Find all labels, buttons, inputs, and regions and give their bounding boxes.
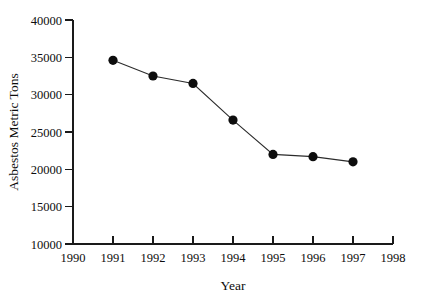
x-tick-label: 1991 bbox=[101, 251, 126, 265]
chart-container: 10000150002000025000300003500040000 1990… bbox=[0, 0, 442, 297]
x-tick-label: 1998 bbox=[381, 251, 406, 265]
x-axis-title: Year bbox=[221, 278, 246, 293]
x-tick-label: 1997 bbox=[341, 251, 366, 265]
y-axis-tick-marks bbox=[65, 20, 73, 244]
y-tick-label: 25000 bbox=[31, 126, 62, 140]
x-tick-label: 1990 bbox=[61, 251, 86, 265]
y-tick-label: 10000 bbox=[31, 238, 62, 252]
data-point-1997 bbox=[348, 157, 357, 166]
x-tick-label: 1993 bbox=[181, 251, 206, 265]
data-point-1994 bbox=[228, 115, 237, 124]
y-tick-label: 30000 bbox=[31, 88, 62, 102]
data-point-1992 bbox=[148, 71, 157, 80]
x-tick-label: 1992 bbox=[141, 251, 166, 265]
y-tick-label: 40000 bbox=[31, 14, 62, 28]
y-tick-label: 35000 bbox=[31, 51, 62, 65]
line-chart: 10000150002000025000300003500040000 1990… bbox=[0, 0, 442, 297]
y-axis-title: Asbestos Metric Tons bbox=[6, 73, 21, 190]
y-tick-label: 20000 bbox=[31, 163, 62, 177]
data-point-1993 bbox=[188, 79, 197, 88]
data-point-1995 bbox=[268, 150, 277, 159]
x-axis-tick-labels: 199019911992199319941995199619971998 bbox=[61, 251, 406, 265]
y-tick-label: 15000 bbox=[31, 200, 62, 214]
x-tick-label: 1994 bbox=[221, 251, 247, 265]
data-point-1991 bbox=[108, 56, 117, 65]
x-tick-label: 1996 bbox=[301, 251, 326, 265]
x-axis-tick-marks bbox=[73, 236, 393, 244]
data-point-1996 bbox=[308, 152, 317, 161]
data-point-markers bbox=[108, 56, 357, 167]
y-axis-tick-labels: 10000150002000025000300003500040000 bbox=[31, 14, 62, 252]
x-tick-label: 1995 bbox=[261, 251, 286, 265]
